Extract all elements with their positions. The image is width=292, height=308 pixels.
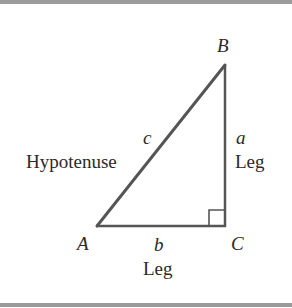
leg-label-a: Leg xyxy=(235,152,265,171)
bottom-border-rule xyxy=(0,303,292,307)
right-triangle-figure: B A C c Hypotenuse a Leg b Leg xyxy=(0,0,292,308)
hypotenuse-side-c xyxy=(97,65,225,226)
vertex-label-a: A xyxy=(77,234,89,253)
side-letter-b: b xyxy=(154,235,164,254)
leg-label-b: Leg xyxy=(143,259,173,278)
right-angle-marker xyxy=(209,210,225,226)
side-letter-c: c xyxy=(143,128,151,147)
vertex-label-b: B xyxy=(217,36,229,55)
side-letter-a: a xyxy=(236,128,246,147)
vertex-label-c: C xyxy=(231,234,244,253)
hypotenuse-label: Hypotenuse xyxy=(26,152,117,171)
